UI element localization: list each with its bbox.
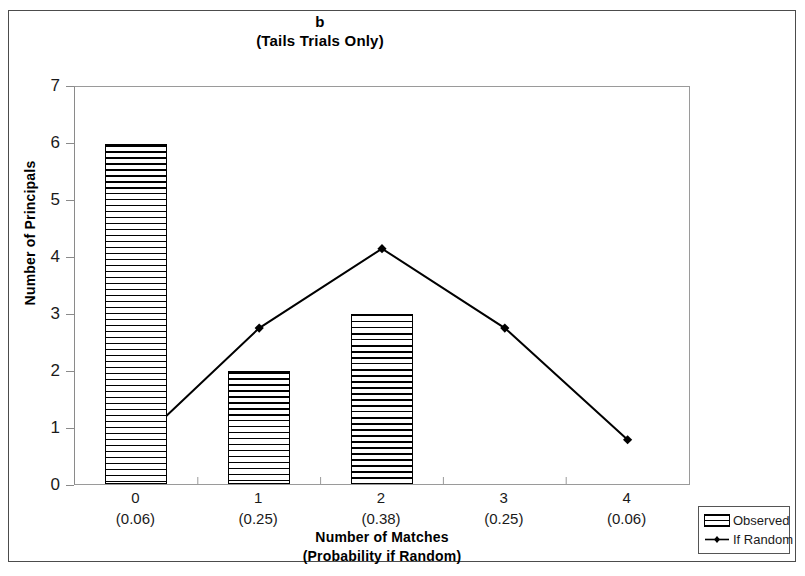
- plot-area: [74, 86, 690, 485]
- legend-label: If Random: [733, 532, 793, 547]
- x-axis-title: Number of Matches (Probability if Random…: [74, 528, 690, 566]
- x-category-value: 2: [320, 487, 443, 508]
- y-tick-mark: [66, 428, 74, 429]
- y-tick-label: 6: [51, 132, 60, 154]
- bar-observed-1: [228, 371, 290, 484]
- x-axis-title-line2: (Probability if Random): [74, 547, 690, 566]
- x-axis-category-3: 3(0.25): [442, 487, 565, 529]
- chart-title: b: [0, 12, 640, 31]
- x-category-probability: (0.25): [197, 508, 320, 529]
- x-category-value: 3: [442, 487, 565, 508]
- x-axis-title-line1: Number of Matches: [74, 528, 690, 547]
- legend-item-if-random[interactable]: If Random: [704, 530, 785, 549]
- y-tick-mark: [66, 86, 74, 87]
- x-category-probability: (0.06): [565, 508, 688, 529]
- legend-label: Observed: [733, 513, 789, 528]
- x-category-value: 1: [197, 487, 320, 508]
- x-category-value: 0: [74, 487, 197, 508]
- y-tick-label: 1: [51, 417, 60, 439]
- x-axis-category-2: 2(0.38): [320, 487, 443, 529]
- y-tick-label: 7: [51, 75, 60, 97]
- y-tick-mark: [66, 371, 74, 372]
- x-category-probability: (0.38): [320, 508, 443, 529]
- y-tick-mark: [66, 257, 74, 258]
- y-tick-label: 5: [51, 189, 60, 211]
- x-axis-category-4: 4(0.06): [565, 487, 688, 529]
- chart-legend: Observed If Random: [698, 506, 790, 554]
- figure-container: b (Tails Trials Only) 7 6 5 4 3 2 1: [0, 0, 805, 576]
- x-category-probability: (0.25): [442, 508, 565, 529]
- line-diamond-swatch-icon: [704, 533, 730, 546]
- hatched-bar-swatch-icon: [704, 514, 730, 527]
- y-tick-mark: [66, 200, 74, 201]
- bar-observed-0: [105, 144, 167, 484]
- y-tick-label: 3: [51, 303, 60, 325]
- y-tick-mark: [66, 314, 74, 315]
- y-tick-mark: [66, 485, 74, 486]
- x-axis-category-1: 1(0.25): [197, 487, 320, 529]
- y-tick-label: 0: [51, 474, 60, 496]
- legend-item-observed[interactable]: Observed: [704, 511, 785, 530]
- bar-observed-2: [351, 314, 413, 484]
- y-tick-label: 4: [51, 246, 60, 268]
- chart-subtitle: (Tails Trials Only): [0, 31, 640, 51]
- x-axis-category-0: 0(0.06): [74, 487, 197, 529]
- x-category-probability: (0.06): [74, 508, 197, 529]
- y-tick-label: 2: [51, 360, 60, 382]
- title-block: b (Tails Trials Only): [0, 12, 640, 51]
- x-category-value: 4: [565, 487, 688, 508]
- y-tick-mark: [66, 143, 74, 144]
- plot-inner: [75, 87, 689, 484]
- y-axis-title: Number of Principals: [22, 103, 38, 363]
